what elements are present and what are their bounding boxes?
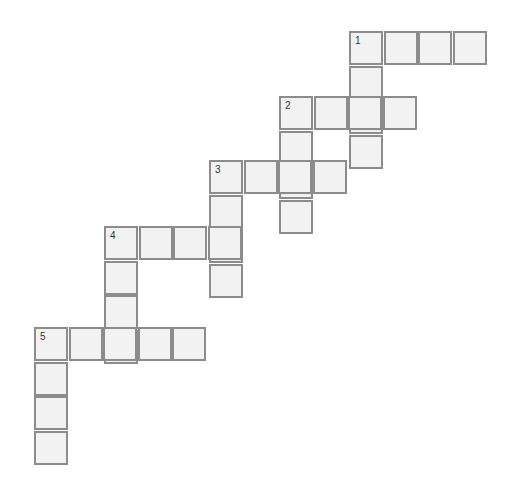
crossword-cell[interactable] — [349, 135, 383, 169]
crossword-cell[interactable]: 3 — [209, 160, 243, 194]
crossword-cell[interactable] — [104, 295, 138, 329]
clue-number: 4 — [110, 230, 116, 242]
clue-number: 1 — [355, 35, 361, 47]
crossword-cell[interactable] — [279, 200, 313, 234]
crossword-cell[interactable] — [172, 327, 206, 361]
crossword-cell[interactable] — [173, 226, 207, 260]
crossword-cell[interactable]: 4 — [104, 226, 138, 260]
crossword-cell[interactable] — [139, 226, 173, 260]
crossword-cell[interactable] — [313, 160, 347, 194]
crossword-cell[interactable] — [348, 96, 382, 130]
crossword-cell[interactable] — [314, 96, 348, 130]
crossword-cell[interactable] — [104, 261, 138, 295]
clue-number: 5 — [40, 331, 46, 343]
crossword-cell[interactable] — [103, 327, 137, 361]
crossword-cell[interactable] — [209, 195, 243, 229]
crossword-cell[interactable]: 2 — [279, 96, 313, 130]
crossword-cell[interactable] — [278, 160, 312, 194]
crossword-cell[interactable] — [34, 431, 68, 465]
crossword-cell[interactable] — [244, 160, 278, 194]
crossword-cell[interactable] — [418, 31, 452, 65]
crossword-cell[interactable] — [34, 396, 68, 430]
crossword-cell[interactable] — [349, 66, 383, 100]
crossword-cell[interactable] — [69, 327, 103, 361]
crossword-cell[interactable] — [453, 31, 487, 65]
crossword-cell[interactable] — [138, 327, 172, 361]
crossword-cell[interactable]: 5 — [34, 327, 68, 361]
crossword-cell[interactable] — [208, 226, 242, 260]
crossword-cell[interactable] — [384, 31, 418, 65]
crossword-cell[interactable] — [209, 264, 243, 298]
clue-number: 3 — [215, 164, 221, 176]
crossword-cell[interactable] — [383, 96, 417, 130]
clue-number: 2 — [285, 100, 291, 112]
crossword-cell[interactable]: 1 — [349, 31, 383, 65]
crossword-cell[interactable] — [34, 362, 68, 396]
